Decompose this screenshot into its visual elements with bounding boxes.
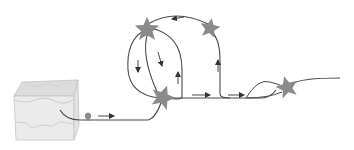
skin-tissue-block [14,80,79,140]
upper-branch-to-right-star [246,81,282,98]
diagram-canvas [0,0,354,150]
arrow-down-inner [158,52,162,66]
star-node-top-right [199,16,222,38]
right-vertical-loop [212,32,230,98]
arrow-left-top [172,17,184,19]
star-node-right [274,74,301,100]
baseline-lower-branch [246,92,282,98]
inner-left-loop [146,32,158,94]
exit-path [292,78,340,84]
top-arc [148,16,208,24]
